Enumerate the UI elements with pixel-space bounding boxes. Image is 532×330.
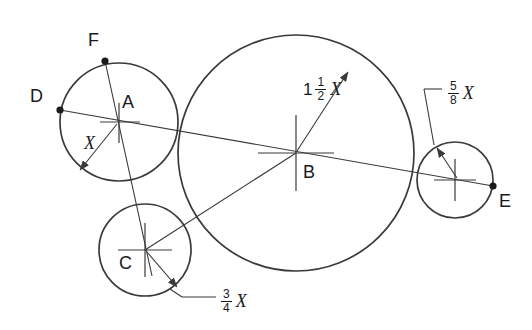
geometry-svg: [0, 0, 532, 330]
label-point-e: E: [499, 192, 511, 210]
center-mark-e: [434, 159, 476, 201]
dimension-b-numerator: 1: [315, 76, 326, 90]
label-point-a: A: [122, 93, 134, 111]
label-point-c: C: [119, 254, 132, 272]
center-mark-b: [258, 115, 334, 191]
dimension-label-circle-b: 1 1 2 X: [303, 76, 341, 102]
construction-line-c-to-b: [145, 153, 296, 250]
point-f-dot: [101, 57, 108, 64]
label-point-b: B: [303, 163, 315, 181]
dimension-e-variable: X: [463, 84, 474, 102]
dimension-e-numerator: 5: [448, 80, 459, 94]
dimension-c-variable: X: [236, 292, 247, 310]
dimension-e-fraction: 5 8: [448, 80, 459, 106]
dimension-c-numerator: 3: [221, 288, 232, 302]
dimension-c-fraction: 3 4: [221, 288, 232, 314]
leader-elbow-circle-c: [170, 289, 182, 297]
label-point-d: D: [30, 87, 43, 105]
technical-drawing-canvas: A B C D E F X 1 1 2 X 3 4 X 5 8 X: [0, 0, 532, 330]
dimension-b-whole: 1: [303, 81, 312, 98]
point-e-dot: [489, 182, 496, 189]
dimension-e-denominator: 8: [448, 94, 459, 107]
dimension-c-denominator: 4: [221, 302, 232, 315]
dimension-label-circle-c: 3 4 X: [219, 288, 247, 314]
radius-arrow-circle-c: [147, 252, 177, 287]
point-d-dot: [56, 106, 63, 113]
leader-stem-circle-e: [424, 89, 434, 145]
dimension-b-denominator: 2: [315, 90, 326, 103]
radius-arrow-circle-e: [437, 148, 457, 178]
dimension-b-fraction: 1 2: [315, 76, 326, 102]
dimension-b-variable: X: [330, 80, 341, 98]
dimension-label-base-x: X: [84, 134, 95, 152]
dimension-label-circle-e: 5 8 X: [446, 80, 474, 106]
label-point-f: F: [88, 31, 99, 49]
